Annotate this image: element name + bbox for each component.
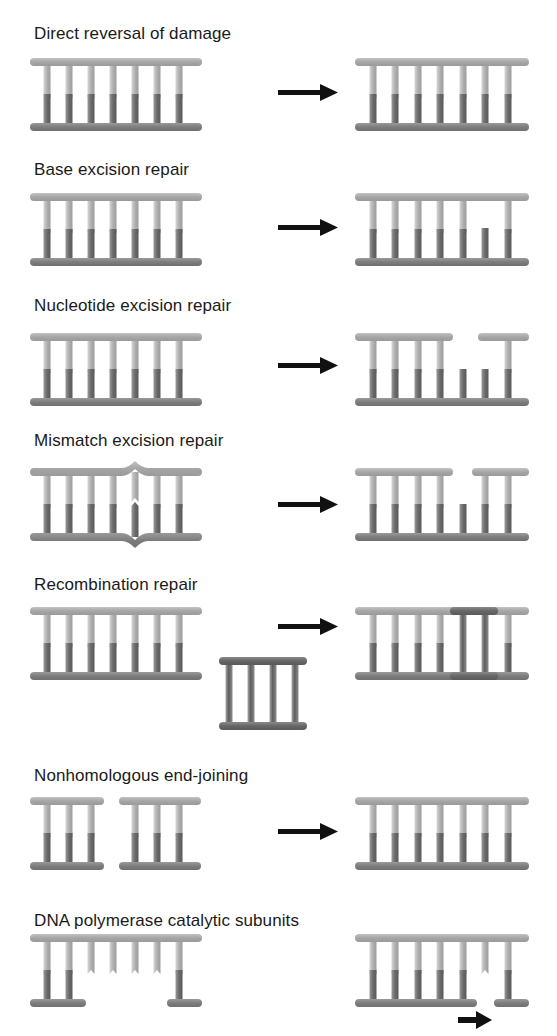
dna-fragment-left <box>30 797 104 870</box>
dna-after <box>355 193 529 266</box>
arrow-icon <box>278 823 338 840</box>
dna-homologous-template <box>219 657 307 730</box>
dna-damaged <box>30 607 202 680</box>
dna-extending <box>355 934 529 1007</box>
arrow-icon <box>278 496 338 513</box>
row-base-excision <box>30 193 529 266</box>
arrow-icon <box>278 84 338 101</box>
row-nhej <box>30 797 529 870</box>
arrow-icon <box>278 219 338 236</box>
row-direct-reversal <box>30 58 529 131</box>
dna-after <box>355 797 529 870</box>
dna-fragment-right <box>119 797 201 870</box>
dna-repair-diagram <box>0 0 557 1036</box>
dna-before <box>30 333 202 406</box>
row-mismatch-excision <box>30 461 529 548</box>
dna-before <box>30 58 202 131</box>
arrow-icon <box>278 618 338 635</box>
dna-after <box>355 468 529 541</box>
dna-after <box>355 58 529 131</box>
row-nucleotide-excision <box>30 333 529 406</box>
row-recombination <box>30 607 529 730</box>
row-dna-polymerase <box>30 934 529 1029</box>
dna-before <box>30 193 202 266</box>
dna-gapped <box>30 934 202 1007</box>
dna-before <box>30 461 202 548</box>
synthesis-direction-arrow-icon <box>458 1011 492 1029</box>
dna-after <box>355 333 529 406</box>
arrow-icon <box>278 357 338 374</box>
dna-after <box>355 607 529 680</box>
